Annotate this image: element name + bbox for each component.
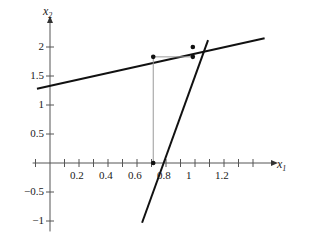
y-tick-label: 1 <box>18 99 44 110</box>
x-tick-label: 0.8 <box>157 170 171 181</box>
y-tick-label: −1 <box>18 215 44 226</box>
x-tick-label: 1 <box>186 170 192 181</box>
y-tick-label: 2 <box>18 41 44 52</box>
x-tick-label: 0.6 <box>128 170 142 181</box>
ticks-group <box>36 47 254 221</box>
chart-canvas: 0.20.40.60.811.221.510.5−0.5−1 x1 x2 <box>0 0 310 251</box>
x-tick-label: 0.2 <box>70 170 84 181</box>
y-axis-title: x2 <box>43 5 52 20</box>
series-steep-line <box>142 40 208 223</box>
marker-point-intersection <box>191 45 196 50</box>
chart-svg <box>0 0 310 251</box>
x-axis-title: x1 <box>277 158 286 173</box>
y-tick-label: 0.5 <box>18 128 44 139</box>
marker-point-root <box>151 161 156 166</box>
y-tick-label: −0.5 <box>18 186 44 197</box>
marker-point-right-lower <box>191 55 196 60</box>
marker-point-left <box>151 55 156 60</box>
series-group <box>37 38 265 222</box>
axes-group <box>33 22 272 231</box>
y-tick-label: 1.5 <box>18 70 44 81</box>
x-tick-label: 1.2 <box>215 170 229 181</box>
x-tick-label: 0.4 <box>99 170 113 181</box>
series-shallow-line <box>37 38 265 88</box>
